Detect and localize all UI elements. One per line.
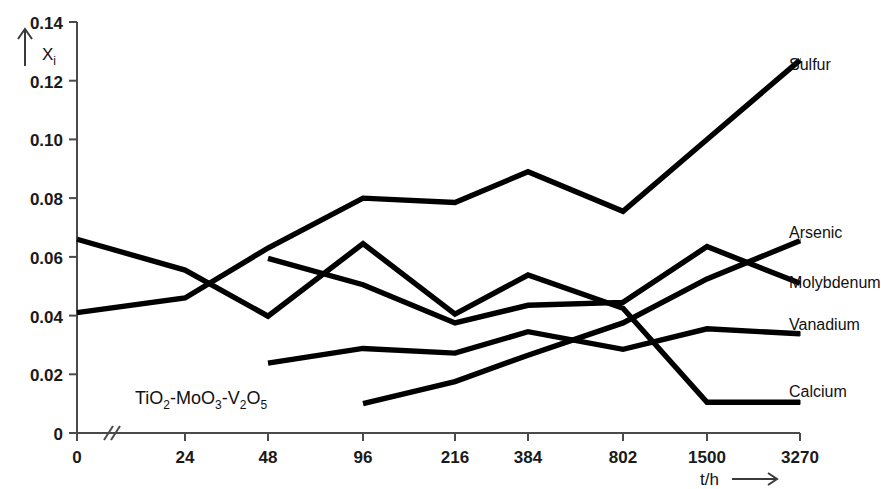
x-tick-label-384: 384 [514, 448, 543, 467]
x-tick-label-24: 24 [176, 448, 195, 467]
y-tick-label-0.14: 0.14 [30, 14, 64, 33]
x-tick-label-96: 96 [354, 448, 373, 467]
y-tick-label-0.02: 0.02 [30, 366, 63, 385]
chart-background [0, 0, 881, 489]
y-tick-label-0.04: 0.04 [30, 308, 64, 327]
y-tick-label-0.06: 0.06 [30, 249, 63, 268]
series-label-arsenic: Arsenic [789, 224, 842, 241]
x-tick-label-48: 48 [259, 448, 278, 467]
x-tick-label-216: 216 [441, 448, 469, 467]
series-label-molybdenum: Molybdenum [789, 274, 881, 291]
x-tick-label-0: 0 [72, 448, 81, 467]
x-tick-label-3270: 3270 [781, 448, 819, 467]
x-axis-title: t/h [700, 470, 719, 489]
y-tick-label-0.10: 0.10 [30, 131, 63, 150]
y-tick-label-0: 0 [54, 425, 63, 444]
x-tick-label-802: 802 [609, 448, 637, 467]
x-tick-label-1500: 1500 [688, 448, 726, 467]
chart-figure: 0.14 0.12 0.10 0.08 0.06 0.04 0.02 0 Xi [0, 0, 881, 489]
series-label-calcium: Calcium [789, 383, 847, 400]
y-tick-label-0.12: 0.12 [30, 73, 63, 92]
y-tick-label-0.08: 0.08 [30, 190, 63, 209]
series-label-sulfur: Sulfur [789, 56, 831, 73]
series-label-vanadium: Vanadium [789, 316, 860, 333]
line-chart-svg: 0.14 0.12 0.10 0.08 0.06 0.04 0.02 0 Xi [0, 0, 881, 489]
